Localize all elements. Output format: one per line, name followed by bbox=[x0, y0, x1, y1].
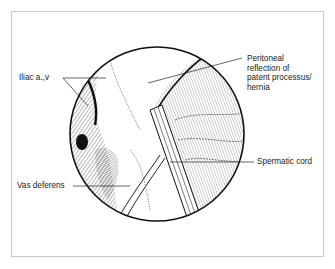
label-iliac: Iliac a.,v bbox=[19, 73, 49, 83]
label-peritoneal-reflection: Peritoneal reflection of patent processu… bbox=[247, 54, 312, 92]
anatomy-illustration bbox=[0, 0, 335, 269]
label-spermatic-cord: Spermatic cord bbox=[257, 157, 312, 167]
circular-view bbox=[60, 40, 260, 230]
label-vas-deferens: Vas deferens bbox=[17, 181, 65, 191]
